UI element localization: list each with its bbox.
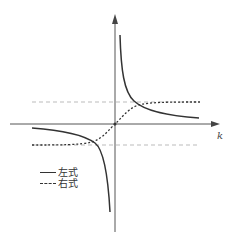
y-axis-arrow-icon (112, 14, 118, 24)
solid-line-swatch-icon (40, 172, 56, 173)
legend-label: 左式 (58, 167, 78, 178)
legend-item-right-expression: 右式 (40, 178, 78, 189)
plot-area (0, 0, 234, 244)
origin-point (114, 123, 117, 126)
legend-label: 右式 (58, 178, 78, 189)
left-expression-curve-right-branch (120, 35, 199, 118)
x-axis-arrow-icon (211, 121, 220, 127)
dotted-line-swatch-icon (40, 183, 56, 184)
legend-item-left-expression: 左式 (40, 167, 78, 178)
legend: 左式 右式 (40, 167, 78, 189)
diagram-canvas: k 左式 右式 (0, 0, 234, 244)
x-axis-label: k (217, 130, 223, 141)
